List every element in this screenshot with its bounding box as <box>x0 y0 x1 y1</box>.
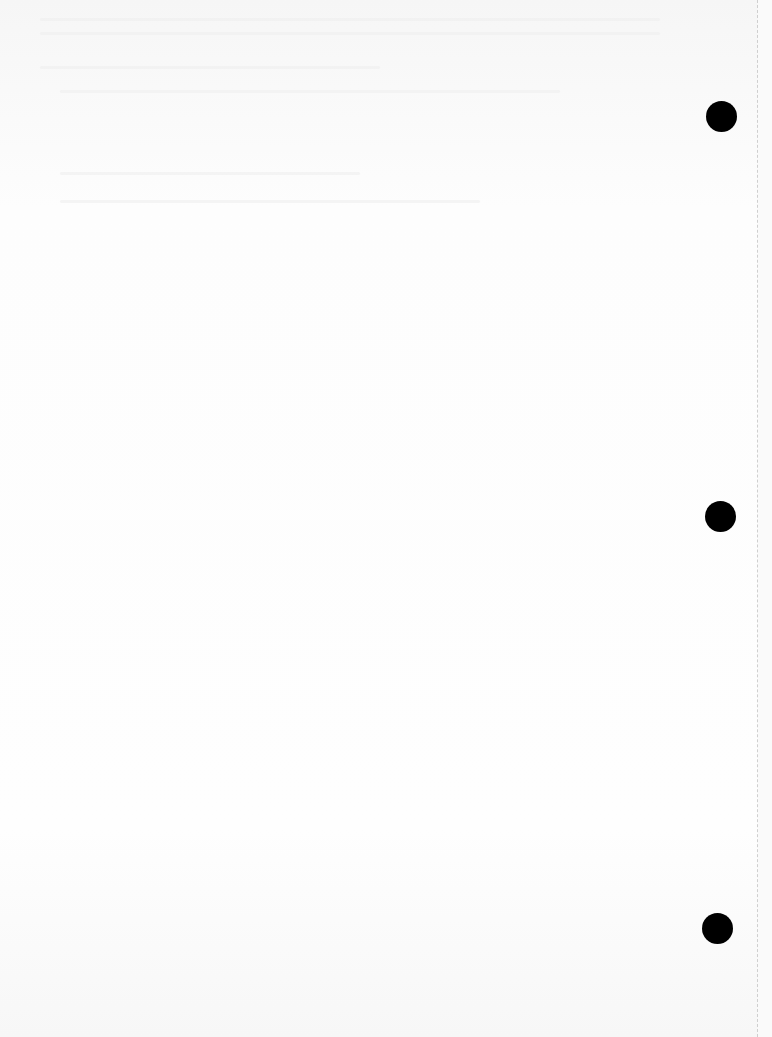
bleed-through-line <box>60 172 360 175</box>
bleed-through-line <box>60 90 560 93</box>
bleed-through-line <box>40 32 660 35</box>
bleed-through-line <box>40 66 380 69</box>
paper-sheet <box>0 0 772 1037</box>
perforated-edge <box>757 0 758 1037</box>
bleed-through-line <box>60 200 480 203</box>
punch-hole <box>702 913 733 944</box>
punch-hole <box>705 501 736 532</box>
right-margin <box>758 0 772 1037</box>
punch-hole <box>706 101 737 132</box>
bleed-through-line <box>40 18 660 21</box>
